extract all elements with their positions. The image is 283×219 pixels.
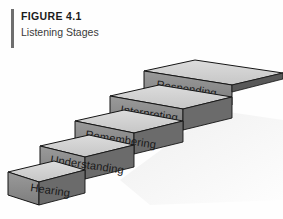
step-hearing: Hearing — [8, 161, 85, 205]
figure-container: FIGURE 4.1 Listening Stages — [0, 0, 283, 219]
listening-stages-staircase: Responding Interpreting Remembering — [0, 0, 283, 219]
